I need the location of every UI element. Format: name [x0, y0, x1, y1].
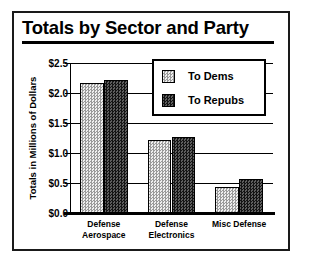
- x-axis-label-line: Electronics: [138, 230, 206, 241]
- x-axis-category-labels: DefenseAerospaceDefenseElectronicsMisc D…: [70, 219, 273, 249]
- y-axis-tick: [65, 153, 70, 154]
- x-axis-category-label: DefenseElectronics: [138, 219, 206, 240]
- legend-item-to-repubs: To Repubs: [162, 91, 244, 109]
- bar: [148, 140, 172, 213]
- x-axis-category-label: DefenseAerospace: [70, 219, 138, 240]
- legend-swatch-to-repubs: [162, 94, 175, 107]
- legend-item-to-dems: To Dems: [162, 67, 234, 85]
- bar: [215, 187, 239, 213]
- chart-legend: To Dems To Repubs: [152, 59, 266, 116]
- y-axis-tick: [65, 213, 70, 214]
- y-axis-tick: [65, 183, 70, 184]
- y-axis-title-text: Totals in Millions of Dollars: [27, 77, 38, 200]
- x-axis-label-line: Aerospace: [70, 230, 138, 241]
- bar: [239, 179, 263, 213]
- chart-figure: Totals by Sector and Party Totals in Mil…: [0, 0, 314, 269]
- legend-label-to-repubs: To Repubs: [188, 94, 244, 106]
- y-axis-line: [70, 63, 71, 213]
- bar: [172, 137, 196, 213]
- title-underline: [22, 41, 274, 44]
- x-axis-label-line: Defense: [138, 219, 206, 230]
- chart-title: Totals by Sector and Party: [22, 17, 284, 39]
- y-axis-tick: [65, 63, 70, 64]
- x-axis-label-line: Misc Defense: [205, 219, 273, 230]
- y-axis-tick: [65, 123, 70, 124]
- legend-swatch-to-dems: [162, 70, 175, 83]
- y-axis-tick-labels: $0.0$0.5$1.0$1.5$2.0$2.5: [38, 58, 68, 218]
- y-axis-tick: [65, 93, 70, 94]
- legend-label-to-dems: To Dems: [188, 70, 234, 82]
- x-axis-category-label: Misc Defense: [205, 219, 273, 230]
- bar: [80, 83, 104, 213]
- bar: [104, 80, 128, 213]
- x-axis-label-line: Defense: [70, 219, 138, 230]
